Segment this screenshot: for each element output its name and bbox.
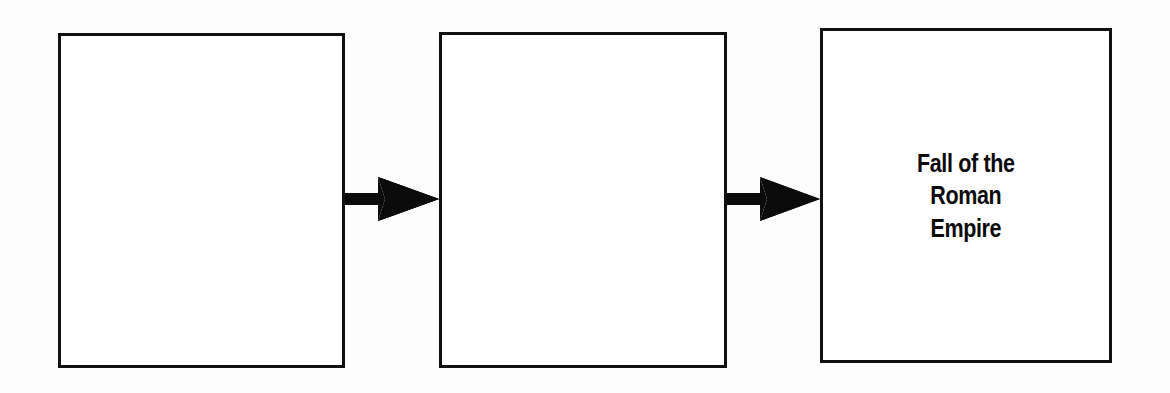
arrow-right-icon-1 (345, 176, 439, 222)
flow-box-3-label: Fall of the Roman Empire (909, 147, 1024, 245)
flow-box-1[interactable] (58, 33, 345, 368)
arrow-right-icon-2 (727, 176, 820, 222)
flow-box-2[interactable] (439, 32, 727, 368)
flow-box-3[interactable]: Fall of the Roman Empire (820, 28, 1112, 363)
diagram-canvas: Fall of the Roman Empire (0, 0, 1170, 393)
